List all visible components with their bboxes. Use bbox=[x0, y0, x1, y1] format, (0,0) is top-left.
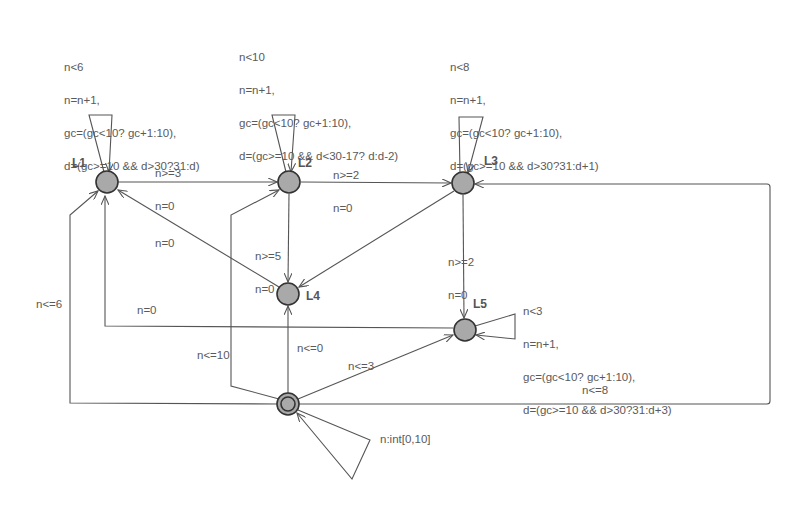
node-L5[interactable] bbox=[454, 319, 476, 341]
edge-label-init-L3: n<=8 bbox=[582, 385, 608, 396]
update: n=n+1, bbox=[64, 95, 200, 106]
edge-label-L3-L5: n>=2 n=0 bbox=[448, 235, 474, 312]
edge-label-init-L4: n<=0 bbox=[297, 343, 323, 354]
update: n=0 bbox=[333, 203, 359, 214]
update: gc=(gc<10? gc+1:10), bbox=[239, 118, 398, 129]
loop-label-L5: n<3 n=n+1, gc=(gc<10? gc+1:10), d=(gc>=1… bbox=[523, 284, 672, 427]
loop-label-init: n:int[0,10] bbox=[380, 434, 431, 445]
update: gc=(gc<10? gc+1:10), bbox=[450, 128, 599, 139]
update: gc=(gc<10? gc+1:10), bbox=[523, 372, 672, 383]
edge-label-L5-L1: n=0 bbox=[137, 305, 157, 316]
update: n=n+1, bbox=[450, 95, 599, 106]
update: n=0 bbox=[155, 201, 181, 212]
update: n=n+1, bbox=[523, 339, 672, 350]
update: d=(gc>=10 && d>30?31:d+3) bbox=[523, 405, 672, 416]
node-label-L4: L4 bbox=[306, 289, 320, 303]
loop-L5[interactable] bbox=[475, 314, 515, 339]
edge-L2-L4[interactable] bbox=[288, 194, 289, 282]
edge-L3-L4[interactable] bbox=[299, 191, 454, 287]
edge-label-init-L1: n<=6 bbox=[36, 299, 62, 310]
edge-label-init-L2: n<=10 bbox=[197, 350, 230, 361]
guard: n>=5 bbox=[255, 251, 281, 262]
guard: n<6 bbox=[64, 62, 200, 73]
edge-label-L1-L2: n>=3 n=0 bbox=[155, 146, 181, 223]
guard: n<10 bbox=[239, 52, 398, 63]
update: d=(gc>=10 && d<30-17? d:d-2) bbox=[239, 151, 398, 162]
update: d=(gc>=10 && d>30?31:d+1) bbox=[450, 161, 599, 172]
edge-L2-L3[interactable] bbox=[301, 182, 451, 183]
node-L2[interactable] bbox=[278, 171, 300, 193]
update: n=0 bbox=[255, 284, 281, 295]
update: gc=(gc<10? gc+1:10), bbox=[64, 128, 200, 139]
guard: n<8 bbox=[450, 62, 599, 73]
edge-label-L2-L4: n>=5 n=0 bbox=[255, 229, 281, 306]
update: n=n+1, bbox=[239, 85, 398, 96]
guard: n>=2 bbox=[333, 170, 359, 181]
update: n=0 bbox=[448, 290, 474, 301]
loop-label-L2: n<10 n=n+1, gc=(gc<10? gc+1:10), d=(gc>=… bbox=[239, 30, 398, 173]
edge-label-L2-L3: n>=2 n=0 bbox=[333, 148, 359, 225]
node-label-L5: L5 bbox=[473, 297, 487, 311]
guard: n>=2 bbox=[448, 257, 474, 268]
guard: n<3 bbox=[523, 306, 672, 317]
edge-label-init-L5: n<=3 bbox=[348, 361, 374, 372]
loop-Init[interactable] bbox=[297, 410, 370, 479]
node-initial-inner bbox=[281, 397, 295, 411]
edge-label-L4-L1: n=0 bbox=[155, 238, 175, 249]
guard: n>=3 bbox=[155, 168, 181, 179]
loop-label-L3: n<8 n=n+1, gc=(gc<10? gc+1:10), d=(gc>=1… bbox=[450, 40, 599, 183]
